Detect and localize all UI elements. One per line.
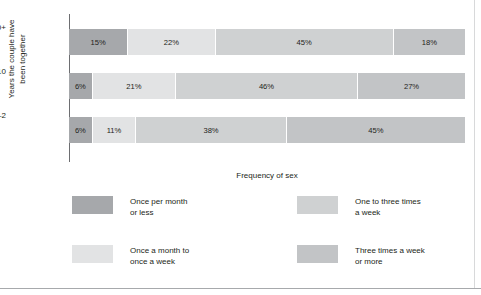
- bar-segment: 11%: [93, 117, 137, 143]
- y-axis-title-line-1: Years the couple have: [6, 0, 17, 124]
- legend-item: Once a month to once a week: [72, 245, 189, 267]
- legend-swatch-icon: [297, 245, 338, 263]
- y-axis-title: Years the couple have been together: [6, 0, 28, 124]
- chart-legend: Once per month or less One to three time…: [0, 194, 481, 284]
- bar-row: 6% 11% 38% 45%: [69, 117, 465, 143]
- bar-segment: 15%: [69, 29, 128, 55]
- bar-segment: 38%: [136, 117, 286, 143]
- legend-item-label: One to three times a week: [355, 196, 421, 218]
- legend-item: One to three times a week: [297, 196, 421, 218]
- legend-item: Three times a week or more: [297, 245, 425, 267]
- bar-segment: 6%: [69, 117, 93, 143]
- bar-segment: 21%: [93, 73, 176, 99]
- figure-bottom-rule: [0, 288, 481, 289]
- legend-swatch-icon: [297, 196, 338, 214]
- legend-item-label: Three times a week or more: [355, 245, 425, 267]
- chart-figure: 10+ 2–10 0–2 Years the couple have been …: [0, 0, 481, 295]
- legend-swatch-icon: [72, 196, 113, 214]
- bar-segment: 46%: [176, 73, 358, 99]
- bar-row: 6% 21% 46% 27%: [69, 73, 465, 99]
- bar-segment: 6%: [69, 73, 93, 99]
- x-axis-title: Frequency of sex: [69, 171, 465, 180]
- bar-row: 15% 22% 45% 18%: [69, 29, 465, 55]
- figure-right-rule: [474, 0, 475, 289]
- bar-segment: 45%: [287, 117, 465, 143]
- bar-segment: 27%: [358, 73, 465, 99]
- plot-area: 15% 22% 45% 18% 6% 21% 46% 27% 6% 11% 38…: [69, 14, 465, 162]
- legend-item-label: Once a month to once a week: [130, 245, 189, 267]
- legend-item-label: Once per month or less: [130, 196, 187, 218]
- legend-item: Once per month or less: [72, 196, 187, 218]
- bar-segment: 18%: [394, 29, 465, 55]
- legend-swatch-icon: [72, 245, 113, 263]
- y-axis-title-line-2: been together: [17, 0, 28, 124]
- bar-segment: 22%: [128, 29, 215, 55]
- bar-segment: 45%: [216, 29, 394, 55]
